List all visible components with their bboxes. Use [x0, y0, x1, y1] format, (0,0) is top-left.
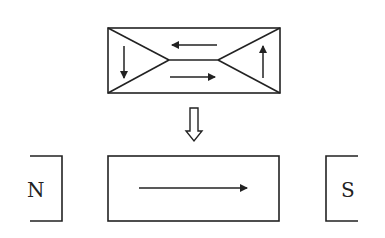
magnetic-domain-diagram: N S: [0, 0, 385, 238]
bottom-block: [108, 156, 279, 221]
top-block: [108, 28, 280, 93]
n-pole-label: N: [27, 178, 45, 202]
n-pole: N: [27, 156, 62, 221]
s-pole-label: S: [341, 178, 355, 202]
hollow-down-arrow-icon: [186, 108, 202, 141]
s-pole: S: [326, 156, 358, 221]
